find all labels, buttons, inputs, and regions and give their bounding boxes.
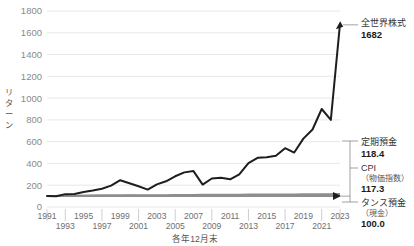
series-world-equity <box>47 24 340 196</box>
y-axis-title-char: タ <box>5 99 13 108</box>
x-tick-label-2001: 2001 <box>129 221 148 231</box>
line-chart: 020040060080010001200140016001800 リターン 1… <box>0 0 414 246</box>
chart-container: 020040060080010001200140016001800 リターン 1… <box>0 0 414 246</box>
x-axis-title: 各年12月末 <box>172 233 218 244</box>
annotation-world-equity: 全世界株式 1682 <box>361 17 406 40</box>
annotation-cpi: CPI （物価指数） 117.3 <box>361 163 409 194</box>
x-tick-label-2017: 2017 <box>276 221 295 231</box>
x-tick-label-2013: 2013 <box>239 221 258 231</box>
annotation-cash-label: タンス預金 <box>361 197 406 208</box>
y-axis-title: リターン <box>5 88 13 130</box>
y-axis-title-char: リ <box>5 88 13 97</box>
y-tick-label: 1600 <box>21 27 42 38</box>
y-tick-label: 1200 <box>21 71 42 82</box>
y-tick-label: 1000 <box>21 93 42 104</box>
y-tick-label: 800 <box>26 114 42 125</box>
y-tick-label: 200 <box>26 180 42 191</box>
x-tick-label-1997: 1997 <box>92 221 111 231</box>
gridlines <box>47 11 340 207</box>
annotation-cash-value: 100.0 <box>361 218 385 229</box>
x-tick-label-2007: 2007 <box>184 211 203 221</box>
flat-series-group <box>47 194 340 196</box>
x-tick-label-2015: 2015 <box>257 211 276 221</box>
x-tick-label-1995: 1995 <box>74 211 93 221</box>
annotation-time-deposit: 定期預金 118.4 <box>361 136 397 159</box>
x-tick-label-1991: 1991 <box>37 211 56 221</box>
annotation-cash: タンス預金 （現金） 100.0 <box>361 197 406 229</box>
x-axis-tick-labels-bottom: 19931997200120052009201320172021 <box>56 221 332 231</box>
x-tick-label-2023: 2023 <box>330 211 349 221</box>
x-tick-label-2019: 2019 <box>294 211 313 221</box>
y-tick-label: 400 <box>26 158 42 169</box>
x-tick-label-2005: 2005 <box>166 221 185 231</box>
x-tick-label-2011: 2011 <box>221 211 240 221</box>
y-axis-title-char: ン <box>5 121 13 130</box>
y-axis-tick-labels: 020040060080010001200140016001800 <box>21 5 42 212</box>
annotation-cpi-label: CPI <box>361 163 376 173</box>
annotation-world-equity-label: 全世界株式 <box>361 17 406 28</box>
x-axis-tick-labels-top: 199119951999200320072011201520192023 <box>37 211 349 221</box>
x-tick-label-2009: 2009 <box>202 221 221 231</box>
x-tick-label-2003: 2003 <box>147 211 166 221</box>
x-tick-label-1993: 1993 <box>56 221 75 231</box>
y-tick-label: 1800 <box>21 5 42 16</box>
annotation-leaders <box>341 25 358 202</box>
annotation-cpi-value: 117.3 <box>361 183 384 194</box>
y-tick-label: 1400 <box>21 49 42 60</box>
leader-bracket <box>342 141 350 202</box>
annotation-time-deposit-label: 定期預金 <box>361 136 397 147</box>
annotation-cpi-sublabel: （物価指数） <box>361 173 409 183</box>
annotation-cash-sublabel: （現金） <box>361 208 393 218</box>
y-tick-label: 600 <box>26 136 42 147</box>
x-tick-label-1999: 1999 <box>111 211 130 221</box>
annotation-world-equity-value: 1682 <box>361 29 382 40</box>
x-tick-label-2021: 2021 <box>312 221 331 231</box>
annotation-time-deposit-value: 118.4 <box>361 148 385 159</box>
y-axis-title-char: ー <box>5 110 13 119</box>
